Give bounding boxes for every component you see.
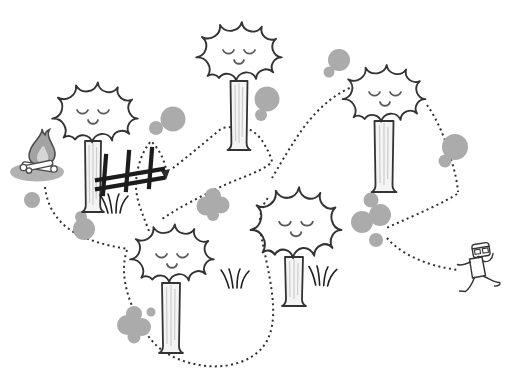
- grass-tuft: [221, 269, 249, 288]
- person-arm: [458, 262, 471, 265]
- campfire: [10, 129, 64, 182]
- person-leg: [484, 277, 500, 287]
- tree-canopy: [251, 187, 342, 258]
- trail-segment-to-person: [387, 238, 459, 270]
- tree-top-right: [343, 65, 426, 192]
- fence: [97, 149, 163, 194]
- trail-segment-bottom-loop: [124, 196, 273, 366]
- bush-blob: [255, 87, 280, 122]
- bush-blob: [24, 192, 40, 208]
- grass-tuft: [100, 194, 128, 213]
- tree-top-left: [52, 83, 138, 213]
- person-leg: [460, 278, 475, 292]
- bush-blob: [73, 211, 95, 240]
- tree-canopy: [130, 224, 214, 282]
- tree-trunk: [372, 121, 397, 192]
- tree-canopy: [196, 22, 282, 81]
- tree-trunk: [228, 81, 251, 150]
- glasses-icon: [482, 248, 488, 253]
- bush-blob: [117, 306, 156, 344]
- tree-trunk: [159, 283, 183, 353]
- bush-blob: [324, 49, 351, 78]
- tree-top-center: [196, 22, 282, 150]
- tree-trunk: [82, 141, 104, 212]
- tree-bottom-center: [251, 187, 342, 306]
- bush-blob: [439, 134, 469, 168]
- trail-segment-cloud-kink-in: [384, 194, 457, 229]
- bush-blob: [197, 188, 230, 221]
- running-person: [458, 242, 500, 291]
- glasses-icon: [474, 249, 480, 254]
- person-torso: [470, 257, 486, 278]
- illustration-canvas: [0, 0, 512, 390]
- bush-blob: [351, 193, 391, 248]
- tree-canopy: [343, 65, 426, 122]
- grass-tuft: [308, 266, 337, 287]
- tree-trunk: [282, 257, 306, 306]
- tree-canopy: [52, 83, 138, 143]
- bush-blob: [149, 107, 186, 136]
